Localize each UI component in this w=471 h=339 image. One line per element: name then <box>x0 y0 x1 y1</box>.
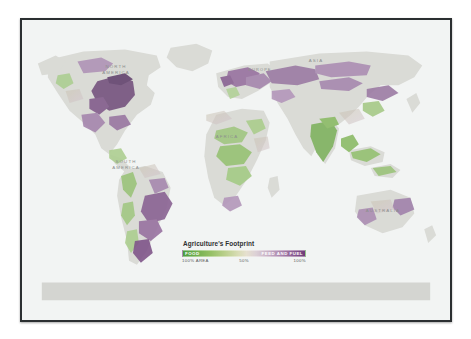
screenshot-root: NORTH AMERICA SOUTH AMERICA AFRICA ASIA … <box>0 0 471 339</box>
legend-tick-0: 100% AREA <box>182 258 209 263</box>
legend-title: Agriculture's Footprint <box>183 240 306 247</box>
legend-tick-2: 100% <box>294 258 306 263</box>
map-frame: NORTH AMERICA SOUTH AMERICA AFRICA ASIA … <box>20 18 452 322</box>
legend-tick-1: 50% <box>239 258 249 263</box>
world-map: NORTH AMERICA SOUTH AMERICA AFRICA ASIA … <box>22 20 450 320</box>
legend-bar-right-label: FEED AND FUEL <box>262 251 303 257</box>
legend-bar-left-label: FOOD <box>185 251 200 257</box>
legend-tick-row: 100% AREA 50% 100% <box>182 258 306 267</box>
legend-color-bar: FOOD FEED AND FUEL <box>182 250 306 257</box>
map-legend: Agriculture's Footprint FOOD FEED AND FU… <box>182 240 306 267</box>
